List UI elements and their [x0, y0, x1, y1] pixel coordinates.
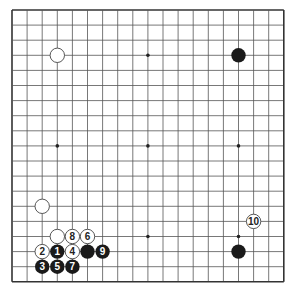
go-board[interactable]: 12345678910	[0, 0, 292, 300]
move-number-label: 4	[70, 246, 76, 257]
black-stone-move-7: 7	[65, 260, 79, 274]
black-stone-move-5: 5	[50, 260, 64, 274]
white-stone-disc	[50, 229, 64, 243]
white-stone-move-2: 2	[35, 244, 49, 258]
move-number-label: 7	[70, 261, 76, 272]
white-stone	[35, 199, 49, 213]
white-stone-disc	[50, 48, 64, 62]
move-number-label: 2	[39, 246, 45, 257]
star-point	[146, 54, 150, 58]
black-stone-move-1: 1	[50, 244, 64, 258]
star-point	[146, 144, 150, 148]
move-number-label: 3	[39, 261, 45, 272]
move-number-label: 9	[100, 246, 106, 257]
black-stone-disc	[231, 48, 245, 62]
white-stone	[50, 229, 64, 243]
black-stone	[231, 48, 245, 62]
star-point	[56, 144, 60, 148]
move-number-label: 10	[248, 216, 260, 227]
move-number-label: 8	[70, 231, 76, 242]
star-point	[237, 144, 241, 148]
black-stone-move-9: 9	[95, 244, 109, 258]
move-number-label: 1	[55, 246, 61, 257]
white-stone-move-4: 4	[65, 244, 79, 258]
white-stone	[50, 48, 64, 62]
move-number-label: 6	[85, 231, 91, 242]
black-stone-move-3: 3	[35, 260, 49, 274]
white-stone-disc	[35, 199, 49, 213]
black-stone-disc	[231, 244, 245, 258]
star-point	[146, 235, 150, 239]
move-number-label: 5	[55, 261, 61, 272]
star-point	[237, 235, 241, 239]
black-stone-disc	[80, 244, 94, 258]
white-stone-move-10: 10	[246, 214, 260, 228]
black-stone	[80, 244, 94, 258]
white-stone-move-8: 8	[65, 229, 79, 243]
black-stone	[231, 244, 245, 258]
white-stone-move-6: 6	[80, 229, 94, 243]
